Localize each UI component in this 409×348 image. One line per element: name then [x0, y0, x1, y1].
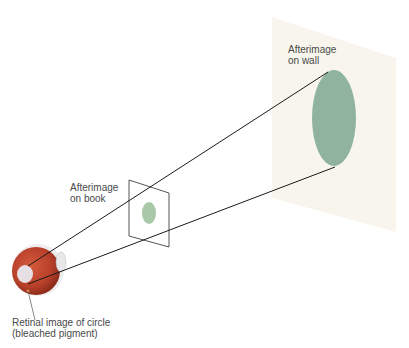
retina-label-line2: (bleached pigment) — [12, 328, 110, 339]
book-label: Afterimage on book — [70, 182, 118, 204]
book-label-line2: on book — [70, 193, 118, 204]
book-afterimage — [142, 202, 156, 224]
book-label-line1: Afterimage — [70, 182, 118, 193]
wall-label-line1: Afterimage — [288, 44, 336, 55]
retinal-image — [17, 265, 33, 283]
wall-afterimage — [312, 70, 356, 166]
wall-label-line2: on wall — [288, 55, 336, 66]
retina-label: Retinal image of circle (bleached pigmen… — [12, 317, 110, 339]
wall-label: Afterimage on wall — [288, 44, 336, 66]
afterimage-diagram — [0, 0, 409, 348]
eye — [12, 244, 66, 296]
retina-label-line1: Retinal image of circle — [12, 317, 110, 328]
